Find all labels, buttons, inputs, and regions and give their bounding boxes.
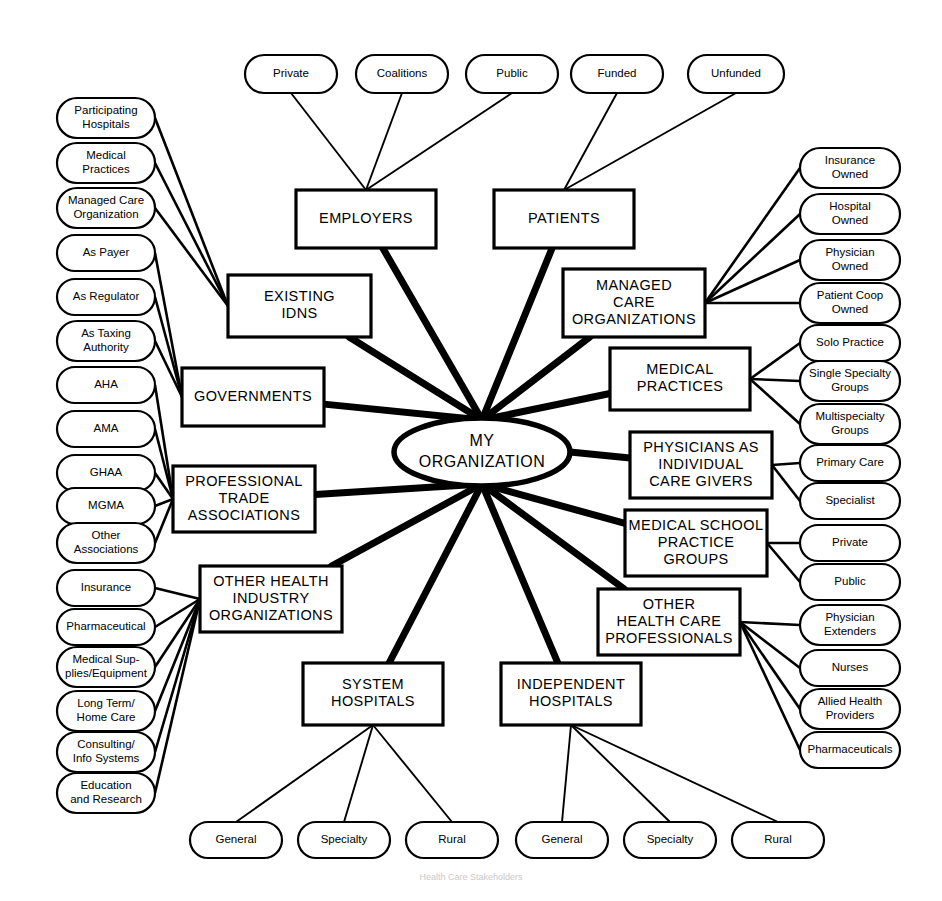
box-medical-practices-label: MEDICAL [646, 361, 713, 377]
box-medical-school[interactable]: MEDICAL SCHOOLPRACTICEGROUPS [625, 510, 767, 576]
pill-bottom-specialty-1-label: Specialty [321, 833, 368, 845]
pill-left-as-taxing-authority-5[interactable]: As TaxingAuthority [57, 321, 155, 361]
pill-right-physician-extenders-11[interactable]: PhysicianExtenders [800, 605, 900, 645]
box-managed-care-label: CARE [613, 294, 655, 310]
pill-left-consulting-info-systems-15-label: Info Systems [73, 752, 140, 764]
pill-right-multispecialty-groups-6-label: Groups [831, 424, 869, 436]
pill-right-nurses-12[interactable]: Nurses [800, 650, 900, 686]
box-independent-hospitals-label: HOSPITALS [529, 693, 613, 709]
pill-right-physician-owned-2-label: Owned [832, 260, 868, 272]
pill-right-allied-health-providers-13-label: Allied Health [818, 695, 883, 707]
pill-bottom-rural-5[interactable]: Rural [732, 822, 824, 858]
pill-left-aha-6[interactable]: AHA [57, 367, 155, 403]
center-node-layer: MYORGANIZATION [394, 418, 570, 486]
pill-left-as-regulator-4[interactable]: As Regulator [57, 279, 155, 315]
pill-right-patient-coop-owned-3-label: Patient Coop [817, 289, 884, 301]
box-managed-care-label: ORGANIZATIONS [572, 311, 696, 327]
pill-top-funded-3[interactable]: Funded [571, 55, 663, 93]
pill-right-solo-practice-4[interactable]: Solo Practice [800, 325, 900, 361]
pill-right-multispecialty-groups-6[interactable]: MultispecialtyGroups [800, 404, 900, 444]
center-node-my-organization[interactable]: MYORGANIZATION [394, 418, 570, 486]
box-system-hospitals[interactable]: SYSTEMHOSPITALS [303, 663, 443, 725]
box-employers[interactable]: EMPLOYERS [296, 190, 436, 248]
pill-left-mgma-9-label: MGMA [88, 499, 124, 511]
pill-left-other-associations-10[interactable]: OtherAssociations [57, 523, 155, 563]
pill-bottom-specialty-4[interactable]: Specialty [624, 822, 716, 858]
pill-right-allied-health-providers-13[interactable]: Allied HealthProviders [800, 689, 900, 729]
pill-right-public-10[interactable]: Public [800, 564, 900, 600]
pill-left-long-term-home-care-14-label: Long Term/ [77, 697, 135, 709]
pill-top-public-2-label: Public [496, 67, 528, 79]
pill-right-hospital-owned-1[interactable]: HospitalOwned [800, 194, 900, 234]
pill-right-insurance-owned-0-label: Insurance [825, 154, 876, 166]
box-employers-label: EMPLOYERS [319, 210, 413, 226]
box-patients[interactable]: PATIENTS [494, 190, 634, 248]
pill-right-pharmaceuticals-14[interactable]: Pharmaceuticals [800, 732, 900, 768]
pill-bottom-specialty-1[interactable]: Specialty [298, 822, 390, 858]
box-physicians-individual-label: CARE GIVERS [649, 473, 753, 489]
box-medical-practices[interactable]: MEDICALPRACTICES [610, 348, 750, 410]
pill-right-physician-owned-2[interactable]: PhysicianOwned [800, 240, 900, 280]
pill-left-ghaa-8[interactable]: GHAA [57, 455, 155, 491]
box-professional-trade-label: ASSOCIATIONS [188, 507, 301, 523]
pill-left-aha-6-label: AHA [94, 378, 118, 390]
pill-left-education-and-research-16-label: and Research [70, 793, 142, 805]
pill-left-education-and-research-16-label: Education [80, 779, 131, 791]
pill-left-long-term-home-care-14-label: Home Care [77, 711, 136, 723]
pill-right-patient-coop-owned-3[interactable]: Patient CoopOwned [800, 283, 900, 323]
box-other-health-industry-label: OTHER HEALTH [213, 573, 329, 589]
pill-left-long-term-home-care-14[interactable]: Long Term/Home Care [57, 691, 155, 731]
pill-left-insurance-11-label: Insurance [81, 581, 132, 593]
box-system-hospitals-label: SYSTEM [342, 676, 404, 692]
box-physicians-individual[interactable]: PHYSICIANS ASINDIVIDUALCARE GIVERS [630, 432, 772, 498]
box-other-health-care-prof[interactable]: OTHERHEALTH CAREPROFESSIONALS [598, 589, 740, 655]
pill-bottom-specialty-4-label: Specialty [647, 833, 694, 845]
box-medical-school-label: GROUPS [663, 551, 728, 567]
center-node-line2: ORGANIZATION [419, 453, 546, 470]
pill-bottom-general-0[interactable]: General [190, 822, 282, 858]
pill-right-allied-health-providers-13-label: Providers [826, 709, 875, 721]
pill-top-unfunded-4[interactable]: Unfunded [688, 55, 784, 93]
pill-left-participating-hospitals-0[interactable]: ParticipatingHospitals [57, 98, 155, 138]
pill-left-medical-sup-plies-equipment-13[interactable]: Medical Sup-plies/Equipment [57, 647, 155, 687]
pill-right-insurance-owned-0[interactable]: InsuranceOwned [800, 148, 900, 188]
pill-left-mgma-9[interactable]: MGMA [57, 488, 155, 524]
pill-left-pharmaceutical-12[interactable]: Pharmaceutical [57, 609, 155, 645]
pill-left-medical-sup-plies-equipment-13-label: Medical Sup- [72, 653, 139, 665]
box-independent-hospitals[interactable]: INDEPENDENTHOSPITALS [501, 663, 641, 725]
box-managed-care[interactable]: MANAGEDCAREORGANIZATIONS [563, 269, 705, 337]
pill-right-primary-care-7[interactable]: Primary Care [800, 445, 900, 481]
pill-right-private-9[interactable]: Private [800, 525, 900, 561]
pill-left-managed-care-organization-2[interactable]: Managed CareOrganization [57, 188, 155, 228]
box-other-health-industry-label: ORGANIZATIONS [209, 607, 333, 623]
pill-top-coalitions-1[interactable]: Coalitions [356, 55, 448, 93]
pill-left-as-payer-3[interactable]: As Payer [57, 235, 155, 271]
pill-left-participating-hospitals-0-label: Participating [74, 104, 137, 116]
pill-left-insurance-11[interactable]: Insurance [57, 570, 155, 606]
box-existing-idns-label: IDNS [281, 305, 317, 321]
box-professional-trade-label: TRADE [218, 490, 269, 506]
pill-right-single-specialty-groups-5[interactable]: Single SpecialtyGroups [800, 361, 900, 401]
pill-left-ama-7[interactable]: AMA [57, 411, 155, 447]
pill-left-ama-7-label: AMA [94, 422, 119, 434]
pill-bottom-rural-2-label: Rural [438, 833, 465, 845]
box-physicians-individual-label: PHYSICIANS AS [643, 439, 759, 455]
pill-left-medical-practices-1[interactable]: MedicalPractices [57, 143, 155, 183]
box-professional-trade[interactable]: PROFESSIONALTRADEASSOCIATIONS [173, 466, 315, 532]
pill-right-physician-owned-2-label: Physician [825, 246, 874, 258]
pill-top-private-0[interactable]: Private [245, 55, 337, 93]
box-existing-idns[interactable]: EXISTINGIDNS [228, 275, 371, 337]
pill-left-education-and-research-16[interactable]: Educationand Research [57, 773, 155, 813]
pill-left-consulting-info-systems-15[interactable]: Consulting/Info Systems [57, 732, 155, 772]
pill-bottom-general-3-label: General [542, 833, 583, 845]
pill-top-public-2[interactable]: Public [466, 55, 558, 93]
box-governments[interactable]: GOVERNMENTS [182, 368, 324, 426]
box-professional-trade-label: PROFESSIONAL [185, 473, 303, 489]
box-other-health-industry-label: INDUSTRY [232, 590, 309, 606]
pill-bottom-rural-2[interactable]: Rural [406, 822, 498, 858]
box-other-health-industry[interactable]: OTHER HEALTHINDUSTRYORGANIZATIONS [200, 566, 342, 632]
pill-right-specialist-8[interactable]: Specialist [800, 483, 900, 519]
pill-left-managed-care-organization-2-label: Managed Care [68, 194, 144, 206]
pill-right-nurses-12-label: Nurses [832, 661, 869, 673]
pill-bottom-general-3[interactable]: General [516, 822, 608, 858]
